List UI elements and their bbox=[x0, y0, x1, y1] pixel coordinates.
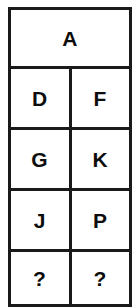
cell-row2-right: K bbox=[70, 129, 131, 190]
cell-row4-right-unknown: ? bbox=[70, 251, 131, 306]
cell-label: J bbox=[11, 210, 69, 231]
puzzle-container: A D F G K J bbox=[8, 7, 132, 291]
cell-label: ? bbox=[11, 268, 69, 289]
header-cell-label: A bbox=[11, 28, 129, 49]
cell-label: P bbox=[72, 210, 130, 231]
table-body: A D F G K J bbox=[10, 9, 131, 306]
cell-row3-right: P bbox=[70, 190, 131, 251]
header-cell-a: A bbox=[10, 9, 131, 68]
table-row: J P bbox=[10, 190, 131, 251]
letter-grid-table: A D F G K J bbox=[8, 7, 132, 307]
cell-row2-left: G bbox=[10, 129, 71, 190]
cell-row3-left: J bbox=[10, 190, 71, 251]
cell-label: D bbox=[11, 88, 69, 109]
cell-label: K bbox=[72, 149, 130, 170]
cell-label: ? bbox=[72, 268, 130, 289]
cell-row1-left: D bbox=[10, 68, 71, 129]
table-row: D F bbox=[10, 68, 131, 129]
cell-label: G bbox=[11, 149, 69, 170]
cell-row1-right: F bbox=[70, 68, 131, 129]
cell-label: F bbox=[72, 88, 130, 109]
cell-row4-left-unknown: ? bbox=[10, 251, 71, 306]
table-row: ? ? bbox=[10, 251, 131, 306]
table-row: G K bbox=[10, 129, 131, 190]
table-row-header: A bbox=[10, 9, 131, 68]
